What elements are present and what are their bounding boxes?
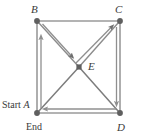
vertex-label-b: B	[31, 4, 38, 15]
vertex-label-a: A	[23, 99, 29, 110]
start-word: Start	[2, 99, 21, 110]
arrow-e-to-c	[76, 27, 112, 64]
vertex-d	[117, 110, 123, 116]
vertex-b	[34, 18, 40, 24]
vertex-label-d: D	[117, 122, 125, 133]
edge-b-e-base	[39, 23, 80, 68]
end-label: End	[26, 122, 42, 132]
edge-e-d	[79, 67, 119, 112]
vertex-a	[34, 110, 40, 116]
vertex-label-e: E	[88, 61, 95, 72]
edge-e-c-base	[79, 23, 119, 68]
vertex-label-c: C	[115, 4, 122, 15]
graph-canvas	[0, 0, 151, 137]
vertex-c	[117, 18, 123, 24]
edge-a-e	[39, 67, 80, 112]
vertex-e	[76, 64, 81, 69]
graph-figure: B C E D Start A End	[0, 0, 151, 137]
start-label: Start A	[2, 100, 30, 110]
arrow-b-to-e	[43, 24, 73, 57]
